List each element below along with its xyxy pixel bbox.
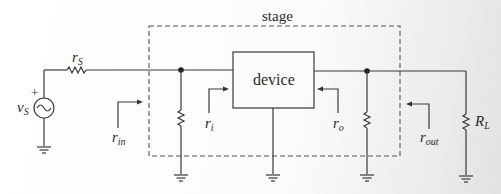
stage-boundary bbox=[149, 26, 400, 156]
load-resistor bbox=[463, 114, 469, 130]
r-i-label: ri bbox=[205, 116, 214, 131]
r-out-label: rout bbox=[420, 130, 439, 145]
voltage-source bbox=[34, 70, 54, 146]
load-resistor-label: RL bbox=[475, 114, 490, 129]
source-polarity: + bbox=[31, 86, 38, 99]
device-label: device bbox=[253, 72, 295, 88]
r-o-label: ro bbox=[333, 116, 344, 131]
r-in-label: rin bbox=[112, 130, 126, 145]
stage-label: stage bbox=[262, 9, 293, 24]
arrow-r-o bbox=[317, 87, 338, 114]
ground-icon-input bbox=[174, 175, 188, 181]
arrow-r-i bbox=[209, 87, 229, 114]
input-shunt-resistor bbox=[178, 110, 184, 126]
ground-icon-output bbox=[360, 175, 374, 181]
ground-icon-load bbox=[459, 176, 473, 182]
source-label: vS bbox=[17, 100, 29, 115]
arrow-r-out bbox=[406, 102, 429, 130]
ground-icon-device bbox=[266, 175, 280, 181]
source-resistor-label: rS bbox=[72, 50, 83, 65]
arrow-r-in bbox=[118, 100, 143, 129]
output-shunt-resistor bbox=[364, 112, 370, 128]
ground-icon-source bbox=[37, 147, 51, 153]
circuit-diagram bbox=[0, 0, 501, 194]
source-resistor bbox=[67, 67, 86, 73]
